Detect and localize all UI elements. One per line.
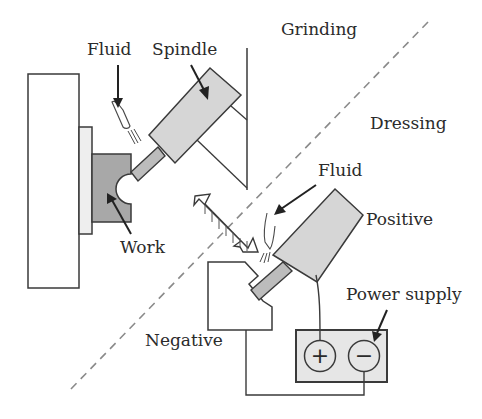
negative-terminal-symbol: − bbox=[355, 343, 373, 368]
fluid-nozzle-top bbox=[112, 101, 130, 128]
label-power-supply: Power supply bbox=[346, 284, 462, 304]
dressing-spindle-shaft bbox=[251, 262, 292, 300]
label-fluid-top: Fluid bbox=[87, 39, 132, 59]
label-negative: Negative bbox=[145, 330, 223, 350]
label-work: Work bbox=[120, 237, 166, 257]
work-holder-plate bbox=[79, 127, 92, 234]
label-dressing: Dressing bbox=[370, 113, 447, 133]
label-spindle: Spindle bbox=[152, 39, 217, 59]
grinding-dressing-diagram: + − Grinding Dressing Fluid Spindle Work… bbox=[0, 0, 482, 419]
grinding-brace-upper bbox=[231, 106, 247, 120]
label-fluid-bottom: Fluid bbox=[318, 160, 363, 180]
grinding-spindle-body bbox=[149, 68, 241, 163]
positive-terminal-symbol: + bbox=[311, 343, 329, 368]
fluid-spray-bottom bbox=[260, 252, 270, 263]
fluid-spray-top bbox=[128, 129, 141, 144]
workpiece bbox=[92, 154, 131, 222]
fluid-bottom-pointer-arrow bbox=[274, 185, 316, 215]
grinding-brace-lower bbox=[197, 140, 247, 188]
machine-base-block bbox=[28, 74, 79, 288]
fluid-nozzle-bottom bbox=[264, 213, 275, 249]
feed-direction-double-arrow-icon bbox=[194, 194, 258, 252]
label-grinding: Grinding bbox=[281, 19, 357, 39]
grinding-spindle-shaft bbox=[131, 147, 165, 181]
label-positive: Positive bbox=[366, 209, 433, 229]
